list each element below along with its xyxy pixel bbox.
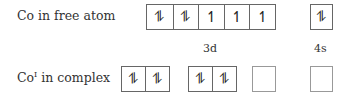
- orbital-box: ↿: [249, 5, 275, 29]
- label-4s: 4s: [314, 42, 327, 55]
- orbital-group-3: [252, 66, 276, 92]
- orbital-box: ⥮: [189, 67, 212, 91]
- orbital-4s-free: ⥮: [310, 4, 333, 30]
- orbital-box: ⥮: [145, 67, 169, 91]
- orbital-group-1: ⥮ ⥮: [121, 66, 170, 92]
- row-label-complex: CoI in complex: [17, 70, 110, 85]
- orbital-box: [311, 67, 332, 91]
- label-co: Co: [17, 70, 34, 85]
- label-3d: 3d: [203, 42, 217, 55]
- row-label-free-atom: Co in free atom: [17, 8, 115, 23]
- orbital-box: ⥮: [122, 67, 145, 91]
- orbital-box: [253, 67, 275, 91]
- orbital-group-4: [310, 66, 333, 92]
- orbital-box: ⥮: [212, 67, 236, 91]
- orbital-3d-free: ⥮ ⥮ ↿ ↿ ↿: [146, 4, 276, 30]
- orbital-box: ⥮: [173, 5, 199, 29]
- orbital-box: ⥮: [147, 5, 173, 29]
- orbital-group-2: ⥮ ⥮: [188, 66, 237, 92]
- label-rest: in complex: [37, 70, 110, 85]
- orbital-box: ↿: [224, 5, 250, 29]
- orbital-box: ⥮: [311, 5, 332, 29]
- orbital-box: ↿: [198, 5, 224, 29]
